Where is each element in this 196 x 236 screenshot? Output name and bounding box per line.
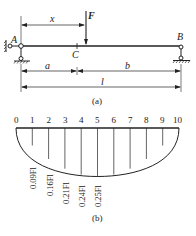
dimension-b-label: b [125,60,130,71]
support-b-label: B [177,31,183,42]
tick-label: 2 [47,115,52,125]
tick-label: 5 [95,115,100,125]
right-roller-support-icon [173,45,190,63]
tick-label: 7 [128,115,133,125]
dimension-x-label: x [49,13,55,24]
tick-label: 9 [160,115,165,125]
figure-b-caption: (b) [92,213,103,223]
value-label: 0.16Fl [45,173,55,196]
dimension-a-label: a [45,60,50,71]
tick-label: 1 [30,115,35,125]
support-a-label: A [10,34,18,45]
tick-label: 3 [63,115,68,125]
value-label: 0.21Fl [61,181,71,204]
dimension-l-label: l [101,76,104,87]
figure-a-caption: (a) [92,96,102,106]
value-labels: 0.09Fl 0.16Fl 0.21Fl 0.24Fl 0.25Fl [28,166,103,207]
tick-label: 6 [112,115,117,125]
value-label: 0.24Fl [77,184,87,207]
tick-label: 0 [14,115,19,125]
value-label: 0.09Fl [28,166,38,189]
tick-labels: 0 1 2 3 4 5 6 7 8 9 10 [14,115,183,125]
figure-a-simply-supported-beam: A B F C x a [4,10,190,106]
value-label: 0.25Fl [93,184,103,207]
point-c-label: C [72,49,79,60]
tick-label: 8 [144,115,149,125]
diagram-canvas: A B F C x a [0,0,196,236]
load-f-label: F [87,10,95,21]
tick-label: 4 [79,115,84,125]
tick-label: 10 [173,115,183,125]
figure-b-moment-envelope: 0 1 2 3 4 5 6 7 8 9 10 [14,115,183,223]
